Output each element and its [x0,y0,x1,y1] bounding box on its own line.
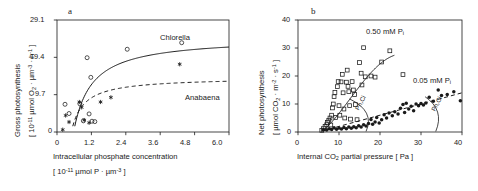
panel-a-plot [0,0,239,191]
panel-a: a 29.1 19.4 9.7 0 0 1.2 2.4 3.6 4.8 6.0 … [0,0,239,191]
panel-b-plot: Pn,CiPn,Ci [239,0,478,191]
panel-b: b 40 30 20 10 0 0 10 20 30 40 Internal C… [239,0,478,191]
figure-root: a 29.1 19.4 9.7 0 0 1.2 2.4 3.6 4.8 6.0 … [0,0,478,191]
svg-text:Pn,Ci: Pn,Ci [430,95,444,112]
